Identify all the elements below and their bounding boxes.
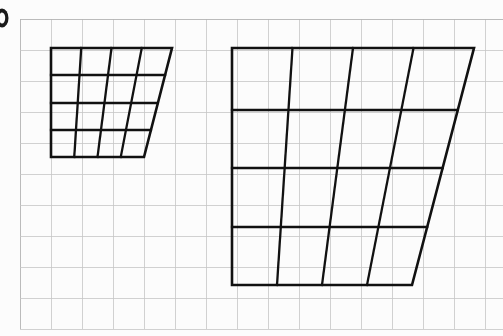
- grid-figure-canvas: [0, 0, 503, 336]
- worksheet-page: Similar figures on grid paper Figure A F…: [0, 0, 503, 336]
